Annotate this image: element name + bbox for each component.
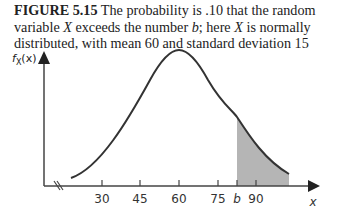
x-tick-90: 90	[248, 192, 263, 206]
x-tick-30: 30	[94, 192, 109, 206]
x-tick-60: 60	[171, 192, 186, 206]
x-axis-label: x	[308, 195, 317, 209]
x-axis-arrow	[308, 180, 320, 192]
x-tick-75: 75	[210, 192, 225, 206]
x-tick-45: 45	[132, 192, 147, 206]
y-axis-arrow	[38, 51, 50, 64]
x-tick-b: b	[233, 192, 241, 206]
normal-curve-chart: 30 45 60 75 b 90 x	[0, 0, 340, 216]
